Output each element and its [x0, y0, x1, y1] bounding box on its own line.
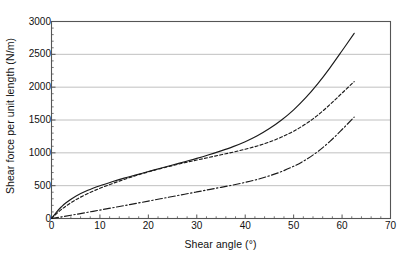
y-tick-marks	[52, 22, 56, 219]
curve-dashed	[52, 82, 355, 219]
chart-figure: Shear force per unit length (N/m) Shear …	[0, 0, 410, 257]
x-tick-marks	[52, 215, 391, 219]
x-tick-label: 60	[322, 221, 362, 231]
x-tick-label: 40	[225, 221, 265, 231]
x-tick-label: 0	[32, 221, 72, 231]
plot-area	[0, 0, 410, 257]
y-tick-label: 3000	[7, 17, 51, 27]
data-curves	[52, 33, 355, 218]
x-tick-label: 50	[274, 221, 314, 231]
curve-solid	[52, 33, 355, 218]
curve-dash-dot	[52, 117, 355, 218]
x-tick-label: 70	[371, 221, 410, 231]
x-tick-label: 20	[128, 221, 168, 231]
y-tick-label: 2500	[7, 49, 51, 59]
y-tick-label: 1500	[7, 115, 51, 125]
y-tick-label: 500	[7, 181, 51, 191]
x-tick-label: 30	[177, 221, 217, 231]
y-tick-label: 2000	[7, 82, 51, 92]
x-tick-label: 10	[80, 221, 120, 231]
y-tick-label: 1000	[7, 148, 51, 158]
gridlines	[52, 22, 391, 186]
